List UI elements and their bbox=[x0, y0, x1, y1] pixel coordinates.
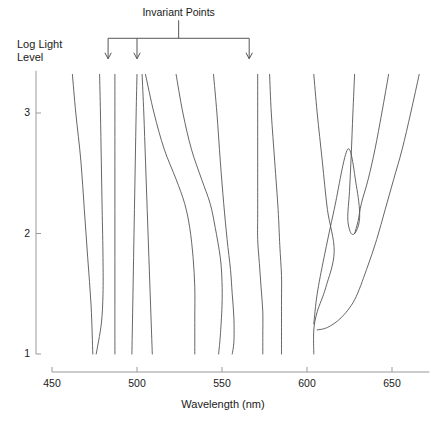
data-curve-curve-2 bbox=[96, 74, 103, 354]
data-curve-curve-14 bbox=[317, 74, 419, 329]
y-tick-label: 3 bbox=[10, 106, 30, 118]
x-tick-label: 550 bbox=[202, 377, 242, 389]
y-tick-label: 2 bbox=[10, 227, 30, 239]
data-curve-curve-13 bbox=[355, 74, 389, 233]
x-tick-label: 600 bbox=[287, 377, 327, 389]
data-curve-curve-8 bbox=[214, 74, 235, 354]
data-curve-curve-11 bbox=[314, 74, 335, 354]
data-curve-curve-10 bbox=[270, 74, 282, 354]
x-tick-label: 650 bbox=[372, 377, 412, 389]
data-curve-curve-4 bbox=[132, 74, 137, 354]
figure-root: Invariant Points Log Light Level Wavelen… bbox=[0, 0, 446, 433]
chart-plot-area bbox=[0, 0, 446, 433]
x-tick-label: 450 bbox=[32, 377, 72, 389]
y-tick-label: 1 bbox=[10, 347, 30, 359]
invariant-points-annotation bbox=[105, 20, 253, 58]
data-curve-curve-5 bbox=[142, 74, 152, 354]
data-curve-curve-9 bbox=[258, 74, 263, 354]
data-curve-curve-6 bbox=[146, 74, 195, 354]
data-curve-curve-7 bbox=[176, 74, 222, 354]
x-tick-label: 500 bbox=[117, 377, 157, 389]
data-curve-curve-1 bbox=[72, 74, 92, 354]
data-curve-curve-12-hook bbox=[314, 74, 360, 323]
